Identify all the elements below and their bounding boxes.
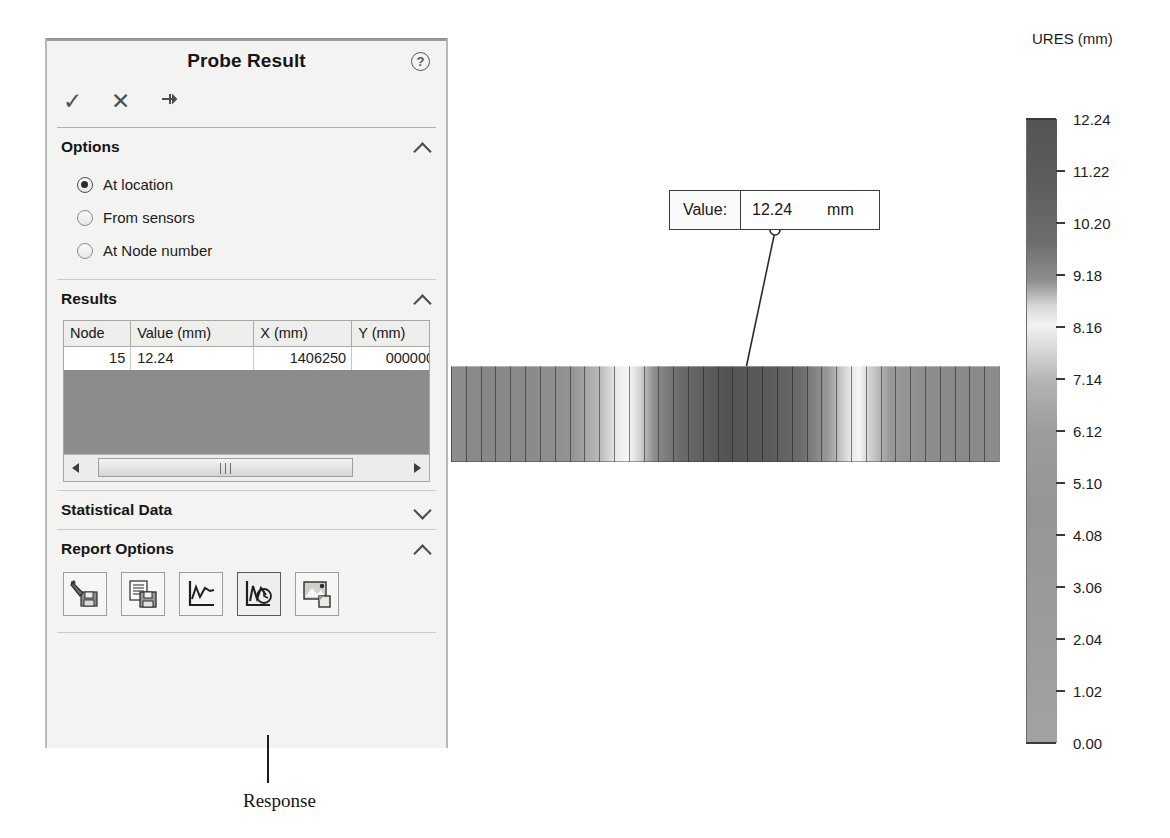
probe-result-property-panel: Probe Result ? ✓ ✕ Options At location F… — [45, 38, 448, 748]
mesh-line — [629, 366, 630, 462]
scrollbar-thumb[interactable] — [98, 458, 353, 477]
fea-beam-model[interactable] — [451, 366, 999, 462]
model-fringe-gradient — [451, 366, 999, 462]
cell-node: 15 — [64, 347, 131, 371]
legend-tick — [1056, 170, 1065, 172]
radio-from-sensors[interactable]: From sensors — [47, 203, 446, 236]
callout-label: Value: — [670, 191, 741, 229]
mesh-line — [451, 366, 452, 462]
save-report-icon[interactable] — [121, 572, 165, 616]
annotation-label-response: Response — [243, 790, 316, 812]
cell-y: 0000000 — [352, 347, 430, 371]
mesh-line — [777, 366, 778, 462]
legend-tick-label: 8.16 — [1073, 319, 1102, 336]
column-header-x[interactable]: X (mm) — [254, 321, 352, 347]
section-label-statistical-data: Statistical Data — [61, 501, 172, 518]
section-label-options: Options — [61, 138, 120, 155]
radio-at-location[interactable]: At location — [47, 170, 446, 203]
chevron-up-icon[interactable] — [415, 293, 428, 306]
model-bottom-edge — [451, 461, 999, 462]
legend-tick-label: 1.02 — [1073, 683, 1102, 700]
divider — [57, 632, 436, 633]
mesh-line — [881, 366, 882, 462]
cancel-x-icon[interactable]: ✕ — [111, 87, 130, 115]
legend-tick — [1056, 378, 1065, 380]
save-as-sensor-glyph — [70, 579, 100, 609]
mesh-line — [732, 366, 733, 462]
mesh-line — [821, 366, 822, 462]
radio-at-node-number[interactable]: At Node number — [47, 236, 446, 269]
mesh-line — [762, 366, 763, 462]
column-header-y[interactable]: Y (mm) — [352, 321, 430, 347]
probe-value-callout[interactable]: Value: 12.24 mm — [669, 190, 880, 230]
mesh-line — [466, 366, 467, 462]
legend-tick — [1056, 690, 1065, 692]
scroll-left-icon[interactable] — [64, 455, 89, 480]
legend-tick-label: 0.00 — [1073, 735, 1102, 752]
mesh-line — [614, 366, 615, 462]
mesh-line — [747, 366, 748, 462]
pin-icon[interactable] — [159, 87, 179, 115]
cell-value: 12.24 — [131, 347, 254, 371]
mesh-line — [984, 366, 985, 462]
mesh-line — [836, 366, 837, 462]
annotation-leader-line — [267, 735, 269, 783]
mesh-line — [510, 366, 511, 462]
legend-tick — [1056, 586, 1065, 588]
mesh-line — [940, 366, 941, 462]
mesh-line — [525, 366, 526, 462]
legend-tick-label: 10.20 — [1073, 215, 1111, 232]
radio-mark-icon — [77, 243, 93, 259]
chevron-up-icon[interactable] — [415, 543, 428, 556]
table-empty-area — [64, 370, 429, 454]
column-header-value[interactable]: Value (mm) — [131, 321, 254, 347]
mesh-line — [895, 366, 896, 462]
mesh-line — [807, 366, 808, 462]
column-header-node[interactable]: Node — [64, 321, 131, 347]
callout-body: 12.24 mm — [741, 191, 879, 229]
legend-tick-label: 3.06 — [1073, 579, 1102, 596]
response-graph-icon[interactable] — [237, 572, 281, 616]
mesh-line — [540, 366, 541, 462]
results-table-container[interactable]: Node Value (mm) X (mm) Y (mm) Z 15 12.24… — [63, 320, 430, 482]
horizontal-scrollbar[interactable] — [64, 454, 429, 481]
radio-mark-icon — [77, 210, 93, 226]
cell-x: 1406250 — [254, 347, 352, 371]
mesh-line — [703, 366, 704, 462]
section-header-report-options[interactable]: Report Options — [47, 530, 446, 568]
mesh-line — [910, 366, 911, 462]
plot-graph-icon[interactable] — [179, 572, 223, 616]
help-circle-icon[interactable]: ? — [411, 52, 430, 71]
save-image-icon[interactable] — [295, 572, 339, 616]
scroll-right-icon[interactable] — [404, 455, 429, 480]
legend-tick — [1056, 534, 1065, 536]
model-top-edge — [451, 366, 999, 367]
callout-value: 12.24 — [752, 201, 792, 219]
chevron-down-icon[interactable] — [415, 504, 428, 517]
save-as-sensor-icon[interactable] — [63, 572, 107, 616]
mesh-line — [658, 366, 659, 462]
chevron-up-icon[interactable] — [415, 141, 428, 154]
section-header-statistical-data[interactable]: Statistical Data — [47, 491, 446, 529]
options-radio-group: At location From sensors At Node number — [47, 166, 446, 279]
section-header-options[interactable]: Options — [47, 128, 446, 166]
scroll-grip-icon — [220, 463, 232, 474]
legend-color-bar — [1026, 119, 1057, 743]
pin-glyph — [159, 89, 179, 109]
section-header-results[interactable]: Results — [47, 280, 446, 318]
legend-tick — [1056, 638, 1065, 640]
radio-label: At location — [103, 176, 173, 193]
mesh-line — [599, 366, 600, 462]
mesh-line — [555, 366, 556, 462]
legend-tick-label: 11.22 — [1073, 163, 1109, 180]
mesh-line — [688, 366, 689, 462]
table-row[interactable]: 15 12.24 1406250 0000000 0( — [64, 347, 430, 371]
legend-tick — [1056, 326, 1065, 328]
radio-label: From sensors — [103, 209, 195, 226]
legend-tick — [1056, 274, 1065, 276]
mesh-line — [481, 366, 482, 462]
legend-tick — [1026, 118, 1056, 120]
legend-tick — [1056, 222, 1065, 224]
confirm-check-icon[interactable]: ✓ — [63, 87, 82, 115]
mesh-line — [969, 366, 970, 462]
